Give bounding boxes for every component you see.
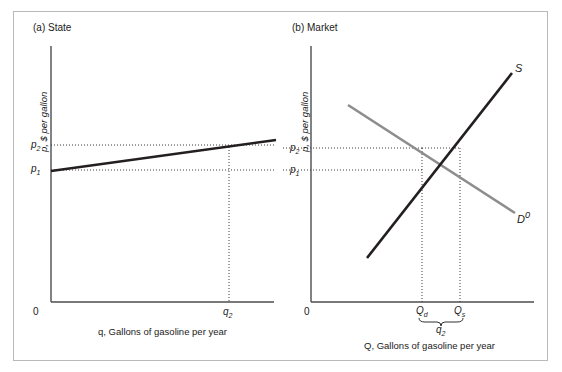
panel-b-origin-label: 0 <box>304 306 310 317</box>
panel-state: (a) State p, $ per gallon q, Gallons of … <box>0 0 281 372</box>
panel-a-tick-q2-sub: 2 <box>229 312 233 319</box>
panel-b-x-axis-label: Q, Gallons of gasoline per year <box>311 340 548 351</box>
panel-b-brace-label-sub: 2 <box>442 330 446 337</box>
panel-b-title: (b) Market <box>292 22 338 33</box>
demand-curve-label-base: D <box>517 213 525 225</box>
panel-a-tick-q2: q2 <box>223 306 232 319</box>
panel-b-brace-label: q2 <box>436 324 445 337</box>
panel-b-tick-p1: p1 <box>290 164 299 177</box>
figure-root: (a) State p, $ per gallon q, Gallons of … <box>0 0 562 372</box>
panel-b-tick-qd-base: Q <box>416 305 424 316</box>
panel-b-y-axis-label: p, $ per gallon <box>299 92 310 152</box>
panel-b-tick-qs-base: Q <box>454 305 462 316</box>
panel-b-tick-qs: Qs <box>454 305 465 318</box>
panel-a-tick-p2-sub: 2 <box>37 145 41 152</box>
panel-b-tick-qd-sub: d <box>424 311 428 318</box>
panel-b-tick-p2: p2 <box>290 142 299 155</box>
panel-a-x-axis-label: q, Gallons of gasoline per year <box>50 326 275 337</box>
panel-a-tick-p2: p2 <box>31 139 40 152</box>
demand-curve-label: D0 <box>517 210 530 225</box>
supply-curve-label: S <box>515 62 522 74</box>
panel-a-title: (a) State <box>33 22 71 33</box>
panel-b-tick-qd: Qd <box>416 305 428 318</box>
panel-a-tick-p1-sub: 1 <box>37 169 41 176</box>
panel-b-tick-p2-sub: 2 <box>296 148 300 155</box>
panel-b-tick-p1-sub: 1 <box>296 170 300 177</box>
panel-a-tick-p1: p1 <box>31 163 40 176</box>
demand-curve-label-sup: 0 <box>525 210 530 220</box>
panel-a-origin-label: 0 <box>33 306 39 317</box>
panel-market: (b) Market p, $ per gallon Q, Gallons of… <box>281 0 562 372</box>
panel-b-tick-qs-sub: s <box>462 311 466 318</box>
